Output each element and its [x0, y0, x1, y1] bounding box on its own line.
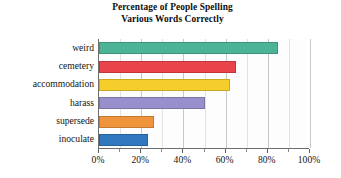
category-label-cemetery: cemetery — [0, 60, 94, 72]
bar-weird — [99, 42, 278, 54]
x-tick-major — [225, 149, 226, 153]
bar-row — [99, 97, 310, 109]
category-label-inoculate: inoculate — [0, 133, 94, 145]
x-tick-minor — [119, 149, 120, 152]
category-label-accommodation: accommodation — [0, 78, 94, 90]
y-axis-category-labels: weirdcemeteryaccommodationharasssupersed… — [0, 39, 94, 149]
category-label-harass: harass — [0, 97, 94, 109]
category-label-supersede: supersede — [0, 115, 94, 127]
chart-title-line-1: Percentage of People Spelling — [60, 2, 285, 14]
x-tick-label: 60% — [205, 154, 245, 166]
bar-row — [99, 61, 310, 73]
x-tick-label: 0% — [78, 154, 118, 166]
bar-chart: Percentage of People Spelling Various Wo… — [0, 0, 341, 178]
x-tick-minor — [204, 149, 205, 152]
bar-row — [99, 116, 310, 128]
x-tick-label: 40% — [162, 154, 202, 166]
bar-cemetery — [99, 61, 236, 73]
x-tick-major — [309, 149, 310, 153]
chart-title: Percentage of People Spelling Various Wo… — [60, 2, 285, 25]
x-tick-label: 80% — [247, 154, 287, 166]
bar-harass — [99, 97, 205, 109]
x-tick-label: 20% — [120, 154, 160, 166]
plot-area — [98, 39, 309, 149]
category-label-weird: weird — [0, 42, 94, 54]
x-tick-minor — [161, 149, 162, 152]
bars-layer — [99, 39, 309, 148]
x-tick-major — [140, 149, 141, 153]
chart-title-line-2: Various Words Correctly — [60, 14, 285, 26]
bar-inoculate — [99, 134, 148, 146]
x-tick-minor — [246, 149, 247, 152]
x-tick-label: 100% — [289, 154, 329, 166]
gridline-major — [310, 39, 311, 148]
x-tick-minor — [288, 149, 289, 152]
x-tick-major — [267, 149, 268, 153]
bar-supersede — [99, 116, 154, 128]
bar-row — [99, 79, 310, 91]
x-tick-major — [98, 149, 99, 153]
bar-row — [99, 134, 310, 146]
bar-accommodation — [99, 79, 230, 91]
x-tick-major — [182, 149, 183, 153]
bar-row — [99, 42, 310, 54]
